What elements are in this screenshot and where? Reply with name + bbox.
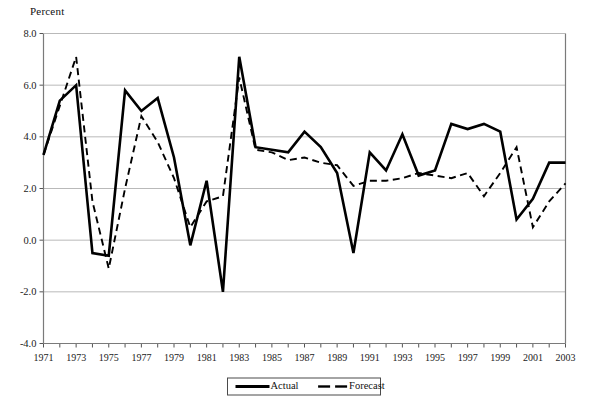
series-line-forecast bbox=[44, 57, 566, 269]
gridlines-group bbox=[44, 34, 566, 292]
x-tick-label: 1979 bbox=[164, 352, 184, 363]
y-tick-label: 2.0 bbox=[23, 183, 36, 194]
y-tick-label: 8.0 bbox=[23, 28, 36, 39]
x-tick-label: 1991 bbox=[360, 352, 380, 363]
legend-label-actual: Actual bbox=[271, 380, 299, 391]
y-tick-label: -4.0 bbox=[20, 338, 37, 349]
x-tick-label: 1971 bbox=[34, 352, 54, 363]
x-tick-label: 2003 bbox=[556, 352, 576, 363]
x-tick-label: 1993 bbox=[392, 352, 412, 363]
line-chart-plot: 8.06.04.02.00.0-2.0-4.0 1971197319751977… bbox=[0, 0, 602, 405]
x-tick-label: 1997 bbox=[458, 352, 478, 363]
chart-legend: ActualForecast bbox=[228, 378, 385, 395]
x-tick-label: 1973 bbox=[66, 352, 86, 363]
x-tick-label: 1977 bbox=[131, 352, 151, 363]
x-tick-label: 1983 bbox=[229, 352, 249, 363]
x-tick-label: 1985 bbox=[262, 352, 282, 363]
x-tick-label: 1989 bbox=[327, 352, 347, 363]
x-tick-label: 1999 bbox=[490, 352, 510, 363]
y-tick-label: 6.0 bbox=[23, 80, 36, 91]
x-tick-label: 1995 bbox=[425, 352, 445, 363]
series-line-actual bbox=[44, 57, 566, 292]
legend-label-forecast: Forecast bbox=[349, 380, 385, 391]
y-tick-label: -2.0 bbox=[20, 286, 37, 297]
x-axis-ticks-group: 1971197319751977197919811983198519871989… bbox=[34, 344, 576, 363]
x-tick-label: 1975 bbox=[99, 352, 119, 363]
y-tick-label: 4.0 bbox=[23, 131, 36, 142]
data-series-group bbox=[44, 57, 566, 292]
x-tick-label: 1987 bbox=[295, 352, 315, 363]
x-tick-label: 1981 bbox=[197, 352, 217, 363]
chart-container: Percent 8.06.04.02.00.0-2.0-4.0 19711973… bbox=[0, 0, 602, 405]
x-tick-label: 2001 bbox=[523, 352, 543, 363]
y-axis-ticks-group: 8.06.04.02.00.0-2.0-4.0 bbox=[20, 28, 44, 349]
y-tick-label: 0.0 bbox=[23, 235, 36, 246]
